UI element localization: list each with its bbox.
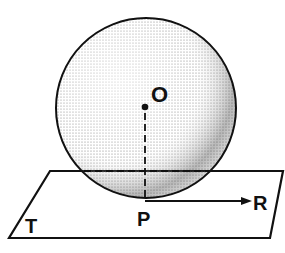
- label-o: O: [151, 82, 168, 107]
- sphere-tangent-plane-diagram: O P R T: [0, 0, 285, 253]
- label-t: T: [25, 215, 37, 237]
- label-p: P: [137, 208, 150, 230]
- label-r: R: [253, 192, 268, 214]
- center-point: [142, 104, 149, 111]
